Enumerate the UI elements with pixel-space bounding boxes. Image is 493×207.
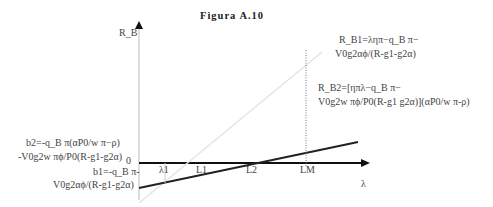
b1-label-line2: V0g2αϕ/(R-g1-g2α) (53, 179, 134, 191)
b1-label-line1: b1=-q_B π- (93, 166, 140, 178)
b2-label-line1: b2=-q_B π(αP0/w π−ρ) (26, 137, 120, 149)
tick-lm: LM (300, 164, 315, 176)
rb1-label-line1: R_B1=ληπ−q_B π− (339, 34, 419, 46)
x-axis-arrow-icon (361, 159, 370, 167)
tick-lambda1: λ1 (159, 164, 169, 176)
rb2-label-line1: R_B2=[ηπλ−q_B π− (318, 82, 401, 94)
rb1-label-line2: V0g2αϕ/(R-g1-g2α) (335, 48, 416, 60)
y-axis-label: R_B (119, 27, 137, 39)
b2-label-line2: -V0g2w πϕ/P0(R-g1-g2α) (18, 151, 122, 163)
rb2-label-line2: V0g2w πϕ/P0(R-g1 g2α)](αP0/w π-ρ) (318, 96, 470, 108)
rb1-line (139, 52, 322, 203)
figure-title: Figura A.10 (200, 10, 264, 21)
tick-l2: L2 (246, 164, 257, 176)
tick-l1: L1 (196, 164, 207, 176)
x-axis-label: λ (361, 178, 366, 190)
